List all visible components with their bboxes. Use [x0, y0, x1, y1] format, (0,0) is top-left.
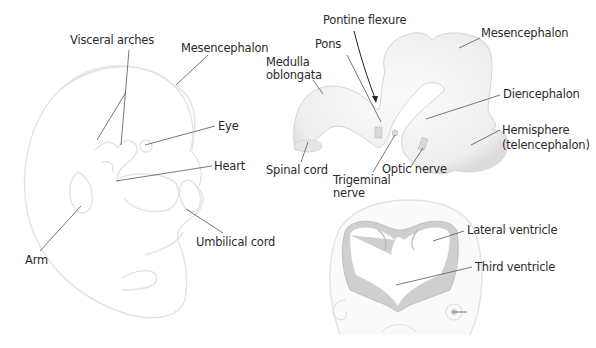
leader-eye [145, 126, 215, 145]
pontine-flexure-arrow [354, 31, 375, 98]
label-pons: Pons [315, 38, 341, 51]
embryo-drawing [25, 66, 204, 318]
label-arm: Arm [25, 254, 48, 267]
label-trigeminal-2: nerve [333, 187, 365, 200]
arm-bud-shape [70, 172, 93, 213]
label-umbilical-cord: Umbilical cord [196, 236, 275, 249]
label-visceral-arches: Visceral arches [70, 34, 154, 47]
leader-mesencephalon-embryo [176, 55, 208, 85]
arrowhead-icon [372, 96, 378, 103]
label-hemisphere-2: (telencephalon) [502, 139, 590, 152]
visceral-arches-shape [95, 141, 137, 182]
leader-arm [40, 206, 81, 251]
label-eye: Eye [218, 120, 239, 133]
pons-marker [375, 127, 382, 138]
leader-umbilical [186, 209, 223, 233]
eye-shape [140, 140, 152, 152]
label-third-ventricle: Third ventricle [475, 261, 555, 274]
spinal-cord-end [294, 140, 322, 152]
leader-heart [116, 166, 212, 181]
embryo-outline [25, 67, 203, 318]
coronal-section [330, 200, 482, 335]
label-diencephalon: Diencephalon [503, 88, 580, 101]
label-pontine-flexure: Pontine flexure [323, 14, 406, 27]
limb-shape [122, 271, 157, 290]
leader-visceral-a [121, 50, 129, 145]
label-lateral-ventricle: Lateral ventricle [467, 224, 557, 237]
label-heart: Heart [214, 160, 245, 173]
label-mesencephalon-embryo: Mesencephalon [181, 42, 268, 55]
heart-shape [120, 174, 179, 212]
label-mesencephalon-brain: Mesencephalon [481, 27, 568, 40]
label-medulla-2: oblongata [266, 69, 322, 82]
label-optic-nerve: Optic nerve [382, 163, 447, 176]
label-spinal-cord: Spinal cord [266, 164, 328, 177]
label-hemisphere-1: Hemisphere [502, 124, 569, 137]
